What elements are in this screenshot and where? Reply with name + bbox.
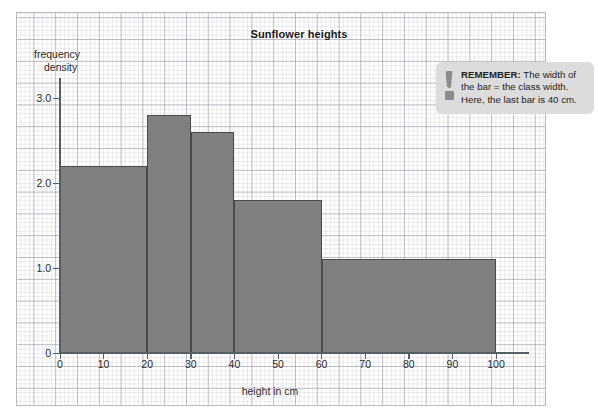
x-tick-label-100: 100 (487, 358, 505, 370)
remember-callout: REMEMBER: The width of the bar = the cla… (436, 62, 594, 114)
y-tick-label-2: 2.0 (31, 177, 51, 189)
x-tick-label-50: 50 (272, 358, 284, 370)
exclamation-mark-body (445, 71, 454, 88)
y-tick-label-0: 0 (31, 347, 51, 359)
x-tick-label-40: 40 (229, 358, 241, 370)
x-tick-label-0: 0 (57, 358, 63, 370)
histogram-bar-0-20 (60, 166, 147, 353)
y-tick-3 (53, 98, 59, 99)
x-tick-label-80: 80 (403, 358, 415, 370)
x-tick-label-60: 60 (316, 358, 328, 370)
y-tick-1 (53, 268, 59, 269)
x-tick-label-30: 30 (185, 358, 197, 370)
y-tick-label-1: 1.0 (31, 262, 51, 274)
remember-callout-text: REMEMBER: The width of the bar = the cla… (461, 69, 587, 106)
exclamation-mark-dot (445, 91, 454, 100)
x-tick-label-10: 10 (98, 358, 110, 370)
x-tick-label-90: 90 (447, 358, 459, 370)
chart-title: Sunflower heights (0, 28, 598, 40)
x-tick-label-20: 20 (141, 358, 153, 370)
y-tick-label-3: 3.0 (31, 92, 51, 104)
chart-canvas: Sunflower heights 0 10 20 30 40 50 60 70… (0, 0, 598, 419)
histogram-bar-40-60 (234, 200, 321, 353)
histogram-bar-60-100 (322, 259, 496, 353)
y-axis-title-line2: density (34, 61, 80, 74)
y-axis-line (59, 78, 61, 354)
histogram-bar-20-30 (147, 115, 191, 353)
y-axis-title-line1: frequency (34, 48, 80, 60)
x-axis-line (59, 352, 529, 354)
y-axis-title: frequency density (34, 48, 80, 73)
x-axis-title: height in cm (0, 385, 540, 397)
remember-callout-keyword: REMEMBER: (461, 69, 521, 80)
y-tick-2 (53, 183, 59, 184)
exclamation-mark-icon (443, 69, 455, 106)
x-tick-label-70: 70 (359, 358, 371, 370)
histogram-bar-30-40 (191, 132, 235, 353)
y-tick-0 (53, 353, 59, 354)
